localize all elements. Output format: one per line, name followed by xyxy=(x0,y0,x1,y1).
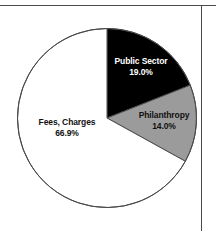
pie-label-public-sector-value: 19.0% xyxy=(108,67,174,78)
pie-label-fees-charges: Fees, Charges 66.9% xyxy=(29,117,105,139)
pie-label-public-sector: Public Sector 19.0% xyxy=(108,56,174,78)
pie-label-philanthropy-name: Philanthropy xyxy=(131,110,197,121)
pie-label-philanthropy: Philanthropy 14.0% xyxy=(131,110,197,132)
pie-label-fees-charges-value: 66.9% xyxy=(29,128,105,139)
pie-label-fees-charges-name: Fees, Charges xyxy=(29,117,105,128)
chart-figure: Public Sector 19.0% Philanthropy 14.0% F… xyxy=(0,0,216,231)
pie-label-public-sector-name: Public Sector xyxy=(108,56,174,67)
pie-label-philanthropy-value: 14.0% xyxy=(131,121,197,132)
